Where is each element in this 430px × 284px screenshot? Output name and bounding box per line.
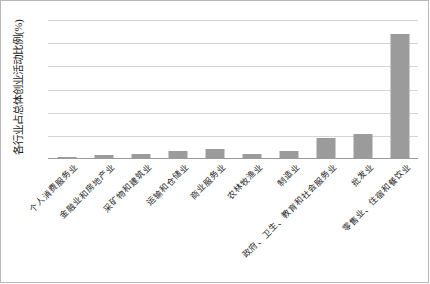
y-axis-title: 各行业占总体创业活动比例(%) xyxy=(10,17,25,157)
bar-slot xyxy=(159,20,196,159)
chart-container: 各行业占总体创业活动比例(%) 0102030405060 个人消费服务业金融业… xyxy=(0,0,429,283)
bar[interactable] xyxy=(353,134,372,159)
bar-slot xyxy=(344,20,381,159)
y-axis-title-wrapper: 各行业占总体创业活动比例(%) xyxy=(12,151,13,152)
bar-slot xyxy=(307,20,344,159)
x-tick-label-wrapper: 制造业 xyxy=(273,160,301,188)
x-tick-label-wrapper: 农林牧渔业 xyxy=(223,160,264,201)
x-tick-label: 制造业 xyxy=(273,160,301,188)
x-tick-label: 农林牧渔业 xyxy=(223,160,264,201)
bar[interactable] xyxy=(279,151,298,159)
bar-slot xyxy=(48,20,85,159)
bar-slot xyxy=(233,20,270,159)
bar-slot xyxy=(196,20,233,159)
x-tick-label: 零售业、住宿和餐饮业 xyxy=(338,160,412,234)
bar[interactable] xyxy=(168,151,187,159)
bar[interactable] xyxy=(205,149,224,159)
bar[interactable] xyxy=(57,157,76,159)
x-tick-label: 商业服务业 xyxy=(186,160,227,201)
x-tick-label-wrapper: 商业服务业 xyxy=(186,160,227,201)
bar[interactable] xyxy=(390,34,409,159)
x-tick-label-wrapper: 零售业、住宿和餐饮业 xyxy=(338,160,412,234)
bar[interactable] xyxy=(94,155,113,159)
bar-slot xyxy=(381,20,418,159)
bars-layer xyxy=(48,20,418,159)
bar-slot xyxy=(270,20,307,159)
bar[interactable] xyxy=(316,138,335,159)
bar[interactable] xyxy=(131,154,150,159)
bar[interactable] xyxy=(242,154,261,159)
x-tick-label-wrapper: 批发业 xyxy=(347,160,375,188)
x-tick-label: 批发业 xyxy=(347,160,375,188)
bar-slot xyxy=(85,20,122,159)
bar-slot xyxy=(122,20,159,159)
x-axis-labels: 个人消费服务业金融业和房地产业采矿物和建筑业运输和仓储业商业服务业农林牧渔业制造… xyxy=(48,160,418,284)
